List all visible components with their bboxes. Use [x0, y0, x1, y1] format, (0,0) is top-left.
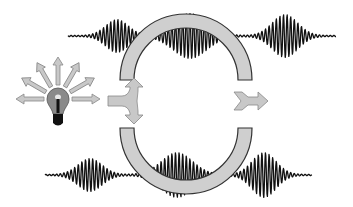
- upper-path-arc: [120, 14, 252, 80]
- output-arrow-icon: [234, 92, 268, 110]
- bulb-base: [53, 114, 63, 126]
- upper-path-arc: [120, 14, 252, 80]
- light-bulb-icon: [16, 57, 100, 126]
- light-ray-arrow-icon: [72, 94, 100, 104]
- beam-splitter-arrow-icon: [108, 78, 143, 124]
- light-ray-arrow-icon: [53, 57, 63, 85]
- diagram-svg: [0, 0, 353, 207]
- light-ray-arrow-icon: [16, 94, 44, 104]
- diagram-canvas: Interferometer with light source and wav…: [0, 0, 353, 207]
